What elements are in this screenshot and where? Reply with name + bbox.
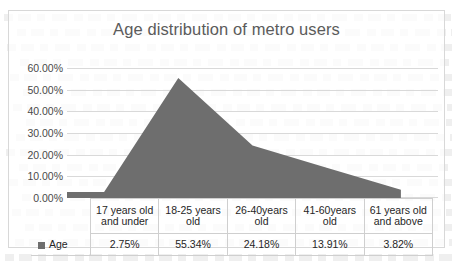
table-row-categories: 17 years oldand under18-25 yearsold26-40… [31,199,433,234]
table-cell-value: 2.75% [91,234,159,256]
y-axis-tick-label: 30.00% [15,127,63,139]
category-label-line2: old [228,216,295,228]
y-axis-tick-label: 40.00% [15,105,63,117]
table-header-category: 18-25 yearsold [159,199,227,234]
table-corner-blank [31,199,91,234]
table-cell-value: 3.82% [364,234,432,256]
category-label-line2: and above [365,216,432,228]
chart-title: Age distribution of metro users [9,20,444,39]
table-row-values: Age 2.75%55.34%24.18%13.91%3.82% [31,234,433,256]
y-axis-tick-label: 20.00% [15,149,63,161]
chart-data-table: 17 years oldand under18-25 yearsold26-40… [31,198,433,256]
y-axis: 0.00%10.00%20.00%30.00%40.00%50.00%60.00… [15,68,63,198]
category-label-line2: old [296,216,363,228]
table-header-category: 17 years oldand under [91,199,159,234]
legend-entry-age: Age [31,234,91,256]
area-series-age [67,68,438,198]
category-label-line2: old [159,216,226,228]
y-axis-tick-label: 60.00% [15,62,63,74]
chart-container: Age distribution of metro users 0.00%10.… [8,10,445,248]
table-header-category: 26-40yearsold [227,199,295,234]
y-axis-tick-label: 50.00% [15,84,63,96]
legend-label: Age [49,238,68,250]
plot-area [67,68,438,198]
table-cell-value: 24.18% [227,234,295,256]
table-header-category: 41-60yearsold [296,199,364,234]
table-cell-value: 55.34% [159,234,227,256]
table-header-category: 61 years oldand above [364,199,432,234]
legend-swatch-icon [38,242,45,249]
category-label-line2: and under [91,216,158,228]
y-axis-tick-label: 10.00% [15,170,63,182]
table-cell-value: 13.91% [296,234,364,256]
